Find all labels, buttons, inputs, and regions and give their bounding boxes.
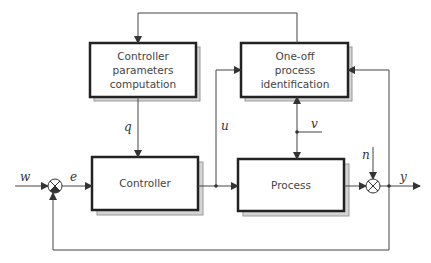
summing-junction-right bbox=[366, 179, 380, 193]
process-label: Process bbox=[240, 161, 342, 209]
signal-w: w bbox=[20, 171, 30, 183]
top-feedback-line bbox=[138, 13, 297, 43]
signal-q: q bbox=[124, 121, 132, 133]
signal-y: y bbox=[400, 171, 407, 183]
block-diagram bbox=[0, 0, 431, 263]
controller-label: Controller bbox=[94, 159, 196, 208]
signal-v: v bbox=[311, 118, 318, 130]
signal-n: n bbox=[362, 149, 370, 161]
controller-parameters-label: Controller parameters computation bbox=[92, 45, 194, 95]
u-branch-dot bbox=[214, 184, 218, 188]
y-to-ident-line bbox=[348, 70, 389, 186]
identification-label: One-off process identification bbox=[262, 45, 328, 95]
summing-junction-left bbox=[48, 179, 62, 193]
signal-u: u bbox=[221, 120, 229, 132]
y-branch-dot bbox=[387, 184, 391, 188]
signal-e: e bbox=[70, 171, 77, 183]
v-branch-dot bbox=[295, 130, 299, 134]
